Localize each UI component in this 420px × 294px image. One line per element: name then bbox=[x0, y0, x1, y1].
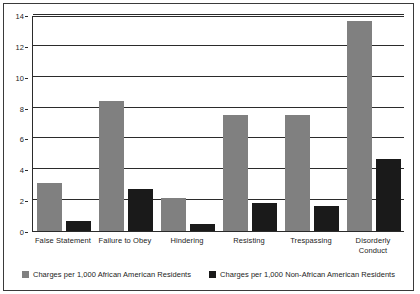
bar bbox=[376, 159, 401, 232]
bars-layer bbox=[33, 17, 404, 231]
x-category-label: Disorderly Conduct bbox=[342, 236, 404, 256]
bar bbox=[252, 203, 277, 231]
bar bbox=[223, 115, 248, 231]
y-tick-8 bbox=[25, 109, 28, 110]
y-tick-label-14: 14 bbox=[15, 12, 24, 21]
legend-item: Charges per 1,000 Non-African American R… bbox=[209, 270, 395, 279]
x-category-label: False Statement bbox=[32, 236, 94, 246]
y-tick-10 bbox=[25, 78, 28, 79]
y-tick-12 bbox=[25, 47, 28, 48]
y-tick-label-6: 6 bbox=[20, 135, 24, 144]
y-tick-label-12: 12 bbox=[15, 42, 24, 51]
y-tick-label-2: 2 bbox=[20, 197, 24, 206]
bar bbox=[37, 183, 62, 231]
y-tick-14 bbox=[25, 16, 28, 17]
legend-item: Charges per 1,000 African American Resid… bbox=[22, 270, 191, 279]
bar-group bbox=[157, 17, 219, 231]
bar bbox=[161, 198, 186, 231]
bar bbox=[314, 206, 339, 231]
y-tick-label-8: 8 bbox=[20, 104, 24, 113]
bar bbox=[99, 101, 124, 231]
bar bbox=[128, 189, 153, 231]
bar-group bbox=[95, 17, 157, 231]
bar-group bbox=[281, 17, 343, 231]
bar bbox=[347, 21, 372, 231]
legend-label: Charges per 1,000 Non-African American R… bbox=[220, 270, 395, 279]
legend-swatch-icon bbox=[22, 271, 29, 278]
bar-chart-figure: 02468101214 False StatementFailure to Ob… bbox=[0, 0, 420, 294]
x-category-label: Trespassing bbox=[280, 236, 342, 246]
y-axis-labels: 02468101214 bbox=[0, 16, 28, 232]
bar bbox=[66, 221, 91, 231]
bar bbox=[190, 224, 215, 231]
x-category-label: Resisting bbox=[218, 236, 280, 246]
x-category-label: Failure to Obey bbox=[94, 236, 156, 246]
legend-swatch-icon bbox=[209, 271, 216, 278]
y-tick-6 bbox=[25, 139, 28, 140]
bar-group bbox=[343, 17, 405, 231]
x-category-label: Hindering bbox=[156, 236, 218, 246]
x-axis-category-labels: False StatementFailure to ObeyHinderingR… bbox=[32, 236, 404, 262]
y-tick-0 bbox=[25, 232, 28, 233]
legend-label: Charges per 1,000 African American Resid… bbox=[33, 270, 191, 279]
chart-legend: Charges per 1,000 African American Resid… bbox=[3, 264, 414, 284]
bar-group bbox=[33, 17, 95, 231]
y-tick-label-4: 4 bbox=[20, 166, 24, 175]
y-tick-label-10: 10 bbox=[15, 73, 24, 82]
bar-group bbox=[219, 17, 281, 231]
y-tick-4 bbox=[25, 170, 28, 171]
y-tick-label-0: 0 bbox=[20, 228, 24, 237]
bar bbox=[285, 115, 310, 231]
plot-area bbox=[32, 16, 404, 232]
y-tick-2 bbox=[25, 201, 28, 202]
